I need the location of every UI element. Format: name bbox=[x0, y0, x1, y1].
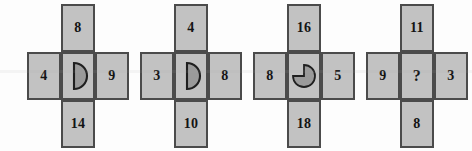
cross-3-left-value: 8 bbox=[266, 69, 273, 83]
cross-figure-2: 4 3 8 10 bbox=[139, 3, 243, 149]
cross-3-center-cell bbox=[287, 52, 321, 100]
cross-1-bottom-value: 14 bbox=[71, 117, 86, 131]
cross-3-right-cell: 5 bbox=[321, 52, 355, 100]
cross-1-left-cell: 4 bbox=[27, 52, 61, 100]
cross-2-left-value: 3 bbox=[153, 69, 160, 83]
cross-1-top-cell: 8 bbox=[61, 4, 95, 52]
cross-4-top-cell: 11 bbox=[400, 4, 434, 52]
cross-1-center-cell bbox=[61, 52, 95, 100]
cross-2-bottom-cell: 10 bbox=[174, 100, 208, 148]
cross-1-right-value: 9 bbox=[108, 69, 115, 83]
half-disc-icon bbox=[180, 61, 202, 91]
cross-4-center-cell: ? bbox=[400, 52, 434, 100]
cross-4-bottom-cell: 8 bbox=[400, 100, 434, 148]
puzzle-board: 8 4 9 14 4 3 bbox=[0, 0, 472, 151]
cross-4-right-cell: 3 bbox=[434, 52, 468, 100]
cross-figure-1: 8 4 9 14 bbox=[26, 3, 130, 149]
cross-3-top-cell: 16 bbox=[287, 4, 321, 52]
cross-3-right-value: 5 bbox=[334, 69, 341, 83]
cross-4-left-cell: 9 bbox=[366, 52, 400, 100]
cross-1-top-value: 8 bbox=[74, 21, 81, 35]
cross-2-top-cell: 4 bbox=[174, 4, 208, 52]
cross-1-left-value: 4 bbox=[40, 69, 47, 83]
cross-1-bottom-cell: 14 bbox=[61, 100, 95, 148]
half-disc-icon bbox=[67, 61, 89, 91]
cross-3-left-cell: 8 bbox=[253, 52, 287, 100]
cross-2-center-cell bbox=[174, 52, 208, 100]
missing-value-question-mark: ? bbox=[413, 68, 421, 84]
cross-3-top-value: 16 bbox=[297, 21, 312, 35]
cross-2-right-cell: 8 bbox=[208, 52, 242, 100]
cross-figure-3: 16 8 5 18 bbox=[252, 3, 356, 149]
cross-4-left-value: 9 bbox=[379, 69, 386, 83]
cross-4-right-value: 3 bbox=[447, 69, 454, 83]
cross-4-bottom-value: 8 bbox=[413, 117, 420, 131]
cross-1-right-cell: 9 bbox=[95, 52, 129, 100]
cross-3-bottom-value: 18 bbox=[297, 117, 312, 131]
cross-4-top-value: 11 bbox=[410, 21, 424, 35]
three-quarter-disc-icon bbox=[293, 61, 315, 91]
cross-3-bottom-cell: 18 bbox=[287, 100, 321, 148]
cross-2-right-value: 8 bbox=[221, 69, 228, 83]
cross-2-bottom-value: 10 bbox=[184, 117, 199, 131]
cross-figure-4: 11 9 ? 3 8 bbox=[365, 3, 469, 149]
cross-2-left-cell: 3 bbox=[140, 52, 174, 100]
cross-2-top-value: 4 bbox=[187, 21, 194, 35]
